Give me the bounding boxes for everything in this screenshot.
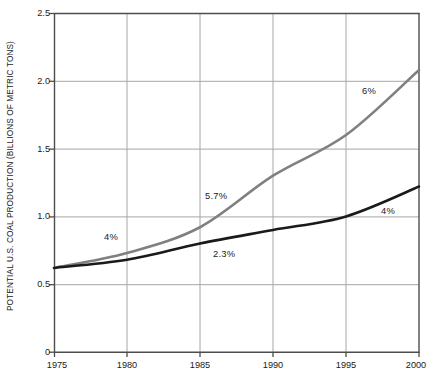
growth-rate-label: 4%	[381, 206, 395, 216]
growth-rate-label: 2.3%	[213, 249, 235, 259]
growth-rate-label: 6%	[362, 86, 376, 96]
growth-rate-label: 5.7%	[205, 191, 227, 201]
chart-figure: POTENTIAL U.S. COAL PRODUCTION (BILLIONS…	[0, 0, 435, 381]
growth-rate-label: 4%	[104, 232, 118, 242]
growth-rate-annotations: 4%5.7%2.3%6%4%	[0, 0, 435, 381]
